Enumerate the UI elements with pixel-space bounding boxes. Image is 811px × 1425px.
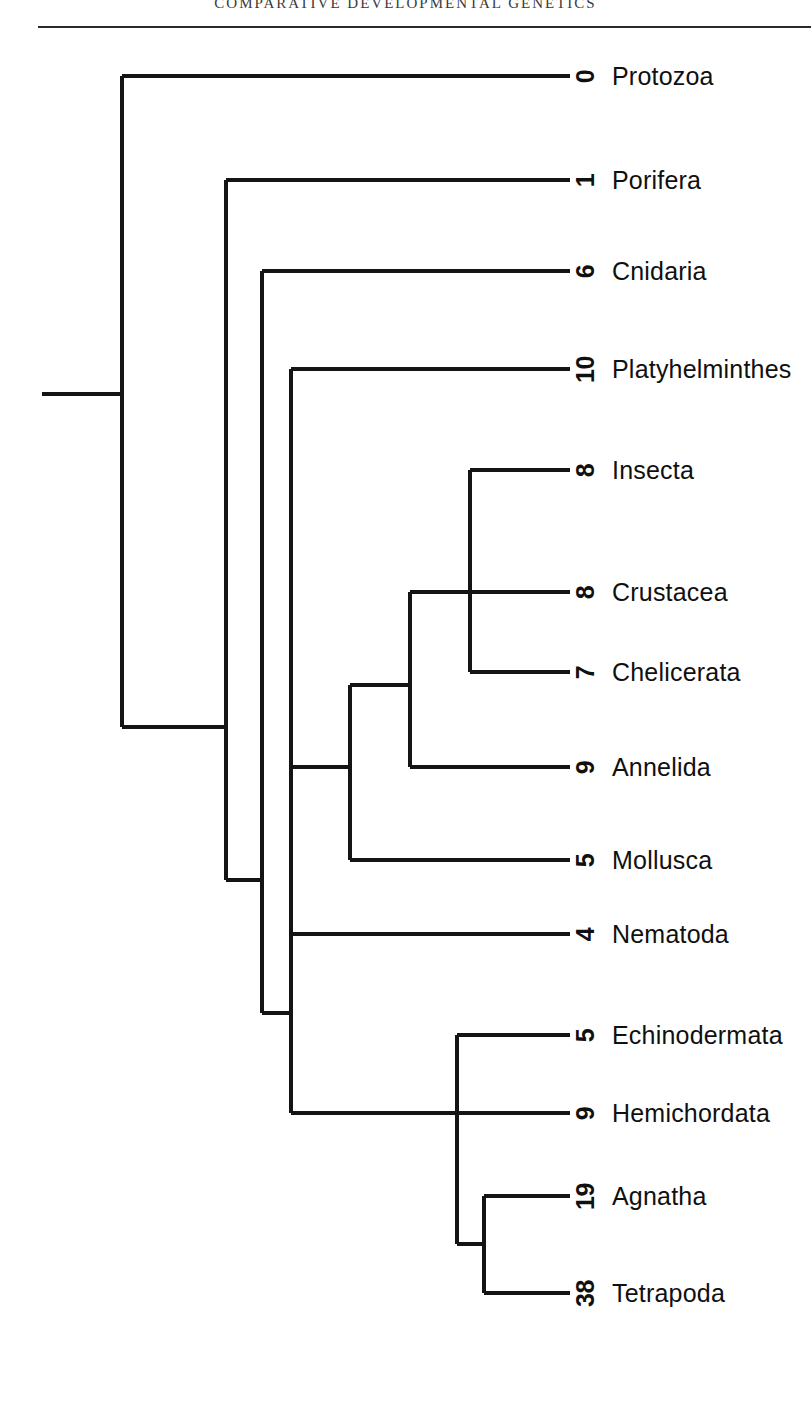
- leaf-value-porifera: 1: [571, 163, 600, 197]
- list-item: 1 Porifera: [568, 163, 701, 197]
- list-item: 19 Agnatha: [568, 1179, 707, 1213]
- leaf-value-annelida: 9: [571, 750, 600, 784]
- leaf-label-echinodermata: Echinodermata: [612, 1021, 783, 1050]
- leaf-label-insecta: Insecta: [612, 456, 694, 485]
- list-item: 4 Nematoda: [568, 917, 729, 951]
- list-item: 8 Crustacea: [568, 575, 728, 609]
- figure-page: COMPARATIVE DEVELOPMENTAL GENETICS: [0, 0, 811, 1425]
- leaf-value-cnidaria: 6: [571, 254, 600, 288]
- list-item: 5 Mollusca: [568, 843, 712, 877]
- leaf-value-platyhelminthes: 10: [571, 352, 600, 386]
- leaf-label-crustacea: Crustacea: [612, 578, 728, 607]
- list-item: 7 Chelicerata: [568, 655, 741, 689]
- list-item: 6 Cnidaria: [568, 254, 707, 288]
- leaf-label-annelida: Annelida: [612, 753, 711, 782]
- list-item: 0 Protozoa: [568, 59, 714, 93]
- list-item: 5 Echinodermata: [568, 1018, 783, 1052]
- list-item: 9 Hemichordata: [568, 1096, 770, 1130]
- leaf-value-insecta: 8: [571, 453, 600, 487]
- leaf-value-tetrapoda: 38: [571, 1276, 600, 1310]
- leaf-value-mollusca: 5: [571, 843, 600, 877]
- leaf-value-chelicerata: 7: [571, 655, 600, 689]
- leaf-label-chelicerata: Chelicerata: [612, 658, 741, 687]
- leaf-value-protozoa: 0: [571, 59, 600, 93]
- leaf-value-agnatha: 19: [571, 1179, 600, 1213]
- leaf-label-tetrapoda: Tetrapoda: [612, 1279, 725, 1308]
- leaf-label-mollusca: Mollusca: [612, 846, 712, 875]
- leaf-label-porifera: Porifera: [612, 166, 701, 195]
- leaf-label-platyhelminthes: Platyhelminthes: [612, 355, 791, 384]
- leaf-value-hemichordata: 9: [571, 1096, 600, 1130]
- list-item: 38 Tetrapoda: [568, 1276, 725, 1310]
- list-item: 9 Annelida: [568, 750, 711, 784]
- leaf-label-hemichordata: Hemichordata: [612, 1099, 770, 1128]
- leaf-label-agnatha: Agnatha: [612, 1182, 707, 1211]
- list-item: 10 Platyhelminthes: [568, 352, 791, 386]
- leaf-label-cnidaria: Cnidaria: [612, 257, 707, 286]
- leaf-value-echinodermata: 5: [571, 1018, 600, 1052]
- leaf-value-nematoda: 4: [571, 917, 600, 951]
- leaf-value-crustacea: 8: [571, 575, 600, 609]
- list-item: 8 Insecta: [568, 453, 694, 487]
- leaf-label-nematoda: Nematoda: [612, 920, 729, 949]
- leaf-label-protozoa: Protozoa: [612, 62, 714, 91]
